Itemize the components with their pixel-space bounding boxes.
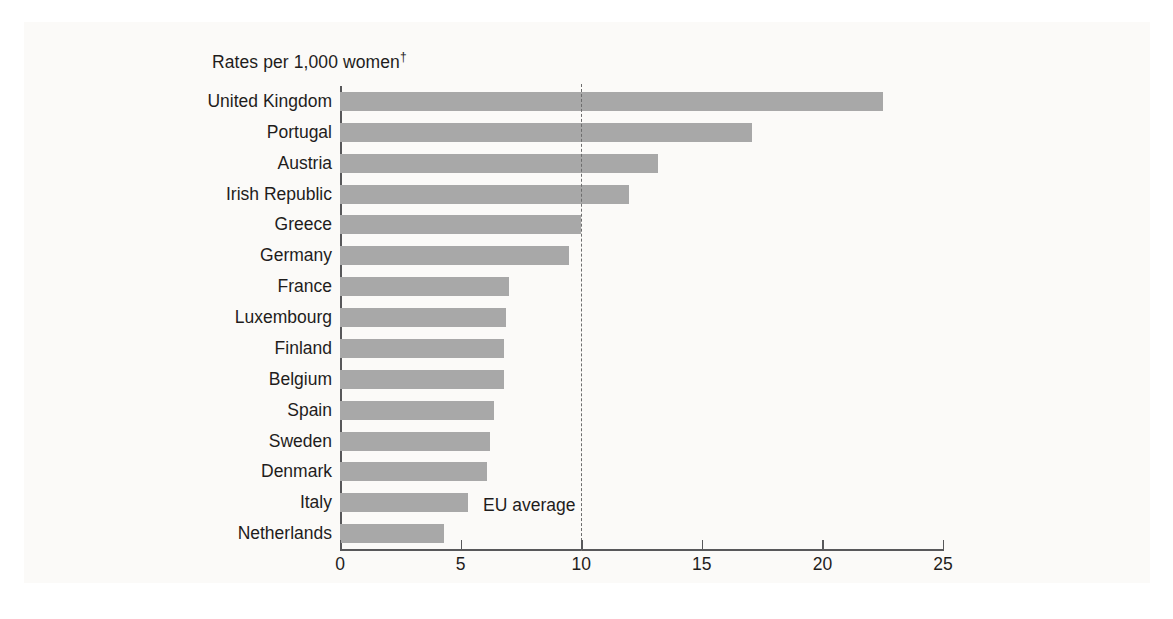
eu-average-label: EU average — [483, 495, 575, 516]
x-axis-tick-label: 0 — [335, 554, 345, 575]
units-note-text: Rates per 1,000 women — [212, 52, 400, 72]
bar-row — [340, 209, 943, 240]
x-axis-tick-label: 20 — [813, 554, 832, 575]
units-note: Rates per 1,000 women† — [212, 50, 407, 73]
bar — [340, 370, 504, 389]
bar-row — [340, 179, 943, 210]
bar-row — [340, 487, 943, 518]
x-axis-tick-label: 10 — [571, 554, 590, 575]
bar — [340, 524, 444, 543]
x-axis-line — [340, 549, 944, 551]
category-label: Portugal — [267, 117, 332, 148]
x-axis-tick-label: 25 — [933, 554, 952, 575]
x-axis-tick — [822, 540, 823, 550]
bar-row — [340, 364, 943, 395]
bar — [340, 123, 752, 142]
category-label: Greece — [275, 209, 332, 240]
bar — [340, 432, 490, 451]
bar-row — [340, 86, 943, 117]
category-label: Denmark — [261, 456, 332, 487]
category-label: Italy — [300, 487, 332, 518]
bar — [340, 92, 883, 111]
bar — [340, 215, 581, 234]
bar-row — [340, 518, 943, 549]
category-label: Spain — [287, 395, 332, 426]
bar — [340, 493, 468, 512]
category-label: Luxembourg — [235, 302, 332, 333]
x-axis-tick — [340, 540, 341, 550]
x-axis-tick-label: 15 — [692, 554, 711, 575]
x-axis-tick — [461, 540, 462, 550]
bar-row — [340, 302, 943, 333]
x-axis-tick-label: 5 — [456, 554, 466, 575]
category-label: Finland — [275, 333, 332, 364]
bar — [340, 246, 569, 265]
category-axis-labels: United KingdomPortugalAustriaIrish Repub… — [150, 86, 332, 549]
bar-row — [340, 148, 943, 179]
bar — [340, 401, 494, 420]
bar-row — [340, 240, 943, 271]
chart-figure: Rates per 1,000 women† United KingdomPor… — [0, 0, 1173, 619]
category-label: France — [278, 271, 332, 302]
bar-row — [340, 426, 943, 457]
bar — [340, 308, 506, 327]
category-label: Sweden — [269, 426, 332, 457]
bar — [340, 277, 509, 296]
plot-area — [340, 86, 943, 549]
category-label: Austria — [278, 148, 332, 179]
category-label: Germany — [260, 240, 332, 271]
category-label: Netherlands — [238, 518, 332, 549]
bar-row — [340, 117, 943, 148]
bar — [340, 339, 504, 358]
x-axis-tick — [581, 540, 582, 550]
category-label: Belgium — [269, 364, 332, 395]
eu-average-reference-line — [581, 84, 582, 551]
bar — [340, 185, 629, 204]
category-label: United Kingdom — [207, 86, 332, 117]
bar — [340, 154, 658, 173]
bar-row — [340, 456, 943, 487]
x-axis-tick — [943, 540, 944, 550]
x-axis-tick — [702, 540, 703, 550]
bar-row — [340, 271, 943, 302]
bar — [340, 462, 487, 481]
category-label: Irish Republic — [226, 179, 332, 210]
bar-row — [340, 333, 943, 364]
bar-row — [340, 395, 943, 426]
dagger-icon: † — [400, 50, 407, 64]
